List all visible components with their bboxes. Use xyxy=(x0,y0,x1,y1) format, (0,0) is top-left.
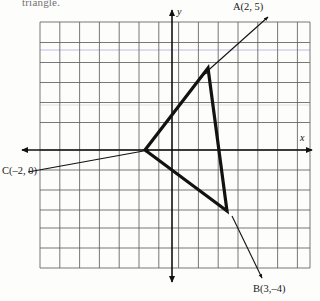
point-label-a: A(2, 5) xyxy=(233,1,263,12)
worksheet-figure: triangle. xyxy=(0,0,320,301)
y-axis-label: y xyxy=(177,6,181,17)
triangle-abc xyxy=(145,68,227,211)
coordinate-plane xyxy=(0,0,320,301)
leader-line-a xyxy=(203,17,268,75)
point-label-c: C(–2, 0) xyxy=(2,165,37,176)
grid-lines xyxy=(40,22,310,268)
point-label-b: B(3,–4) xyxy=(253,283,285,294)
leader-line-c xyxy=(28,150,149,172)
x-axis-label: x xyxy=(300,132,304,143)
